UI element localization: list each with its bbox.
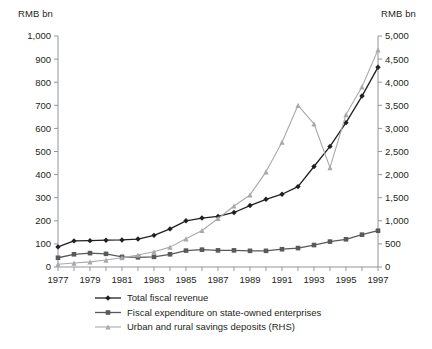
series-marker-1: [376, 228, 381, 233]
x-tick-label: 1985: [175, 274, 196, 285]
left-tick-label: 800: [35, 77, 51, 88]
right-tick-label: 3,500: [385, 100, 409, 111]
series-marker-0: [279, 192, 284, 197]
series-marker-1: [88, 251, 93, 256]
series-marker-1: [344, 237, 349, 242]
legend-marker-1: [106, 310, 111, 315]
chart-figure: RMB bn RMB bn 01002003004005006007008009…: [0, 0, 432, 349]
series-marker-1: [104, 252, 109, 257]
series-marker-2: [327, 165, 332, 170]
right-tick-label: 5,000: [385, 30, 409, 41]
series-marker-0: [199, 215, 204, 220]
series-marker-0: [87, 238, 92, 243]
series-marker-0: [151, 233, 156, 238]
left-tick-label: 600: [35, 123, 51, 134]
left-tick-label: 900: [35, 54, 51, 65]
x-tick-label: 1977: [47, 274, 68, 285]
line-chart-plot: 01002003004005006007008009001,000 05001,…: [0, 0, 432, 349]
legend-label-0: Total fiscal revenue: [127, 292, 208, 303]
series-marker-0: [247, 203, 252, 208]
series-marker-1: [280, 247, 285, 252]
series-marker-2: [295, 103, 300, 108]
right-tick-label: 2,500: [385, 146, 409, 157]
left-tick-label: 1,000: [27, 30, 51, 41]
x-axis: 1977197919811983198519871989199119931995…: [47, 267, 388, 285]
series-marker-0: [71, 238, 76, 243]
series-marker-0: [263, 197, 268, 202]
series-marker-0: [55, 244, 60, 249]
right-axis-title: RMB bn: [381, 8, 416, 19]
series-marker-1: [184, 248, 189, 253]
x-tick-label: 1987: [207, 274, 228, 285]
series-layer: [55, 47, 380, 267]
series-marker-2: [343, 112, 348, 117]
right-tick-label: 4,500: [385, 54, 409, 65]
left-tick-label: 500: [35, 146, 51, 157]
right-tick-label: 1,500: [385, 192, 409, 203]
x-tick-label: 1989: [239, 274, 260, 285]
series-marker-0: [119, 237, 124, 242]
series-marker-1: [312, 243, 317, 248]
chart-legend: Total fiscal revenueFiscal expenditure o…: [95, 292, 322, 332]
series-marker-1: [296, 246, 301, 251]
series-marker-2: [263, 169, 268, 174]
x-tick-label: 1993: [303, 274, 324, 285]
left-axis-title: RMB bn: [18, 8, 53, 19]
left-tick-label: 0: [46, 261, 51, 272]
series-marker-0: [375, 64, 380, 69]
series-marker-1: [232, 248, 237, 253]
left-tick-label: 400: [35, 169, 51, 180]
right-tick-label: 0: [385, 261, 390, 272]
series-marker-0: [167, 226, 172, 231]
series-marker-1: [216, 248, 221, 253]
right-tick-label: 1,000: [385, 215, 409, 226]
series-marker-0: [183, 218, 188, 223]
series-marker-0: [135, 236, 140, 241]
legend-label-1: Fiscal expenditure on state-owned enterp…: [127, 307, 322, 318]
series-marker-0: [103, 238, 108, 243]
series-marker-1: [168, 252, 173, 257]
legend-label-2: Urban and rural savings deposits (RHS): [127, 321, 295, 332]
right-tick-label: 2,000: [385, 169, 409, 180]
series-marker-1: [248, 249, 253, 254]
series-marker-1: [360, 232, 365, 237]
x-tick-label: 1991: [271, 274, 292, 285]
series-marker-2: [375, 47, 380, 52]
left-tick-label: 200: [35, 215, 51, 226]
series-marker-1: [328, 239, 333, 244]
series-marker-0: [231, 210, 236, 215]
right-tick-label: 500: [385, 238, 401, 249]
series-marker-1: [72, 252, 77, 257]
x-tick-label: 1983: [143, 274, 164, 285]
right-axis: 05001,0001,5002,0002,5003,0003,5004,0004…: [378, 30, 409, 272]
left-tick-label: 300: [35, 192, 51, 203]
series-marker-1: [152, 255, 157, 260]
left-tick-label: 700: [35, 100, 51, 111]
series-marker-2: [359, 84, 364, 89]
left-axis: 01002003004005006007008009001,000: [27, 30, 58, 272]
series-marker-2: [279, 140, 284, 145]
series-marker-1: [264, 249, 269, 254]
x-tick-label: 1995: [335, 274, 356, 285]
right-tick-label: 4,000: [385, 77, 409, 88]
x-tick-label: 1981: [111, 274, 132, 285]
series-marker-2: [183, 236, 188, 241]
series-marker-1: [56, 255, 61, 260]
left-tick-label: 100: [35, 238, 51, 249]
right-tick-label: 3,000: [385, 123, 409, 134]
series-line-2: [58, 50, 378, 264]
legend-marker-0: [105, 295, 110, 300]
series-marker-1: [200, 247, 205, 252]
x-tick-label: 1979: [79, 274, 100, 285]
x-tick-label: 1997: [367, 274, 388, 285]
